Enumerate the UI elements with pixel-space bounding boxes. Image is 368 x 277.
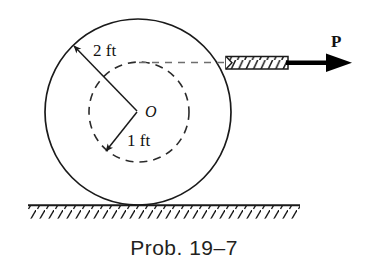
force-label-p: P	[331, 33, 341, 50]
cord	[226, 57, 288, 70]
inner-radius-label: 1 ft	[127, 132, 150, 149]
figure-caption: Prob. 19–7	[0, 236, 368, 260]
force-arrow-p	[286, 54, 352, 72]
center-label: O	[145, 104, 157, 120]
problem-figure: 2 ft O 1 ft P Prob. 19–7	[0, 0, 368, 277]
wheel-outer-circle	[45, 19, 231, 205]
ground-surface	[28, 205, 300, 218]
outer-radius-label: 2 ft	[93, 42, 116, 59]
